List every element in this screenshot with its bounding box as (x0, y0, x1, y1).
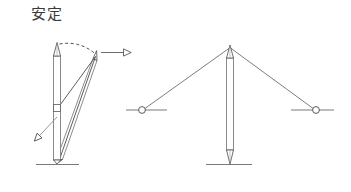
right-guy-wire (231, 48, 315, 110)
rotation-arc (60, 43, 96, 54)
unstable-pole-panel (35, 43, 132, 165)
stable-guyed-pole-panel (126, 45, 334, 165)
upright-pencil-band (54, 105, 61, 112)
left-guy-wire (144, 48, 230, 110)
diagram-canvas: 安定 (0, 0, 351, 192)
pole-stability-figure (0, 0, 351, 192)
right-anchor-circle (313, 107, 320, 114)
mast-pencil (227, 45, 234, 164)
tilted-pencil (57, 51, 98, 162)
pivot-line-upper (58, 57, 96, 109)
pivot-line-lower (60, 57, 96, 159)
left-anchor-circle (139, 107, 146, 114)
mast-pencil-shaft (227, 58, 234, 150)
upright-pencil (54, 43, 61, 165)
